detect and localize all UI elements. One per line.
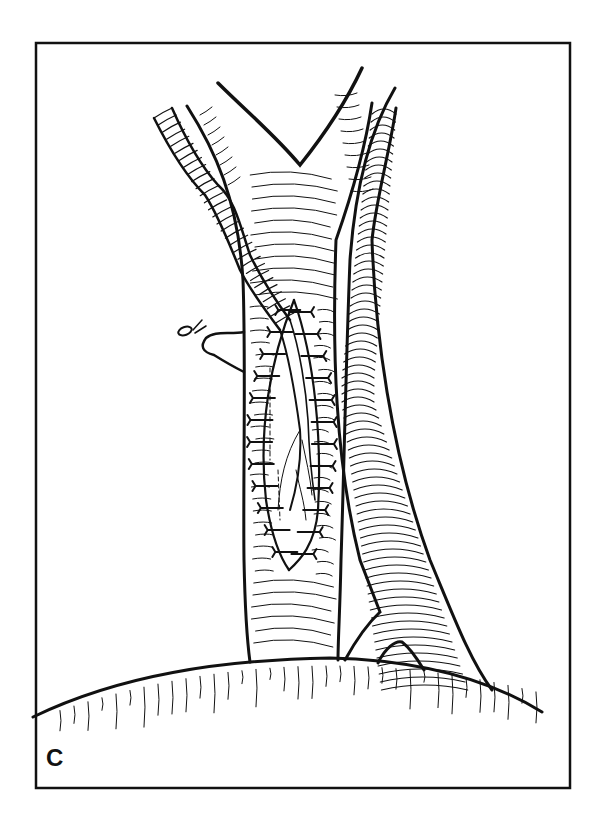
- trunk-hatch-line: [255, 256, 333, 263]
- suture-stitch-left: [249, 459, 274, 469]
- branch-hatch-line: [212, 137, 224, 145]
- trunk-hatch-line: [318, 333, 334, 336]
- plaque-strands: [278, 430, 312, 520]
- trunk-hatch-line: [255, 244, 334, 251]
- trunk-hatch-line: [252, 184, 337, 191]
- trunk-hatch-line: [256, 366, 274, 367]
- branch-hatch-line: [345, 153, 367, 156]
- trunk-hatch-line: [252, 604, 331, 611]
- bifurcation-crotch: [218, 68, 362, 165]
- tube-hatch-line: [183, 157, 201, 167]
- right-vessel-hatch-line: [357, 245, 385, 250]
- ligated-stump: [203, 332, 244, 372]
- mound-hatch-line: [116, 694, 117, 729]
- right-vessel-hatch-line: [352, 285, 381, 290]
- right-vessel-hatch-line: [348, 445, 389, 450]
- mound-hatch-line: [130, 690, 131, 705]
- right-vessel-hatch-line: [358, 517, 412, 522]
- panel-label: C: [46, 744, 63, 772]
- branch-hatch-line: [343, 141, 365, 144]
- branch-hatch-line: [208, 127, 220, 135]
- right-vessel-hatch-line: [364, 181, 390, 186]
- mound-hatch-line: [326, 666, 327, 686]
- trunk-hatch-line: [317, 525, 333, 528]
- tube-hatch-line: [225, 228, 243, 238]
- suture-stitch-left: [265, 525, 290, 535]
- suture-stitch-right: [289, 307, 314, 317]
- right-vessel-hatch-line: [365, 173, 391, 178]
- main-vessel-left-wall: [187, 106, 250, 662]
- tissue-mound-outline: [33, 658, 542, 717]
- trunk-hatch-line: [252, 208, 337, 215]
- tube-hatch-line: [175, 143, 193, 153]
- trunk-hatch-line: [312, 429, 328, 432]
- trunk-hatch-line: [314, 357, 330, 360]
- right-vessel-right-wall: [372, 108, 492, 690]
- figure-frame: [36, 43, 570, 788]
- trunk-hatch-line: [252, 196, 335, 203]
- tube-hatch-line: [162, 122, 180, 132]
- mound-hatch-line: [466, 677, 467, 697]
- trunk-hatch-line: [250, 318, 268, 319]
- right-vessel-hatch-line: [349, 453, 391, 458]
- right-vessel-hatch-line: [371, 117, 395, 122]
- right-vessel-hatch-line: [354, 485, 402, 490]
- mound-hatch-line: [102, 698, 103, 711]
- tube-hatch-line: [188, 165, 206, 175]
- trunk-hatch-line: [314, 345, 330, 348]
- trunk-hatch-line: [250, 172, 331, 179]
- trunk-hatch-line: [253, 592, 336, 599]
- trunk-hatch-line: [319, 537, 335, 540]
- suture-stitch-right: [295, 329, 320, 339]
- suture-stitch-left: [272, 547, 297, 557]
- right-vessel-hatch-line: [343, 405, 376, 410]
- trunk-hatch-line: [255, 292, 338, 299]
- right-vessel-hatch-line: [355, 493, 405, 498]
- right-vessel-hatch-line: [357, 509, 410, 514]
- right-vessel-hatch-line: [374, 629, 450, 634]
- trunk-hatch-line: [252, 450, 270, 451]
- mound-hatch-line: [172, 681, 173, 714]
- small-tube-hatching: [154, 108, 294, 323]
- right-vessel-hatch-line: [355, 261, 384, 266]
- right-vessel-hatch-line: [360, 533, 417, 538]
- right-vessel-hatch-line: [363, 189, 389, 194]
- mound-hatch-line: [368, 667, 369, 689]
- right-vessel-hatch-line: [373, 621, 447, 626]
- tube-hatch-line: [217, 214, 235, 224]
- dashed-guide-lines: [270, 368, 280, 520]
- mound-hatch-line: [494, 682, 495, 711]
- trunk-hatch-line: [318, 309, 334, 312]
- right-vessel-hatch-line: [367, 581, 434, 586]
- suture-stitch-right: [310, 395, 335, 405]
- trunk-hatch-line: [255, 220, 330, 227]
- right-vessel-hatch-line: [344, 413, 379, 418]
- right-vessel-hatch-line: [369, 597, 439, 602]
- tube-hatch-line: [200, 186, 218, 196]
- trunk-hatch-line: [254, 580, 334, 587]
- trunk-hatch-line: [251, 232, 332, 239]
- mound-hatch-line: [284, 667, 285, 691]
- mound-hatch-line: [200, 676, 201, 698]
- trunk-hatch-line: [319, 369, 335, 372]
- trunk-hatch-line: [251, 616, 334, 623]
- mound-hatch-line: [242, 671, 243, 684]
- right-vessel-hatch-line: [356, 253, 384, 258]
- branch-hatch-line: [204, 117, 216, 125]
- trunk-hatch-line: [256, 628, 331, 635]
- tissue-mound-hatching: [60, 666, 537, 731]
- trunk-hatch-line: [253, 558, 271, 559]
- shunt-tube: [280, 330, 300, 510]
- mound-hatch-line: [158, 684, 159, 715]
- mound-hatch-line: [74, 706, 75, 723]
- suture-stitch-left: [254, 371, 279, 381]
- trunk-hatch-line: [250, 306, 268, 307]
- trunk-hatch-line: [253, 498, 271, 499]
- mound-hatch-line: [354, 666, 355, 694]
- trunk-hatch-line: [251, 426, 269, 427]
- suture-row: [247, 305, 337, 559]
- right-vessel-hatch-line: [359, 525, 415, 530]
- patch-right-edge: [289, 300, 319, 570]
- trunk-hatch-line: [317, 405, 333, 408]
- mound-hatch-line: [214, 674, 215, 713]
